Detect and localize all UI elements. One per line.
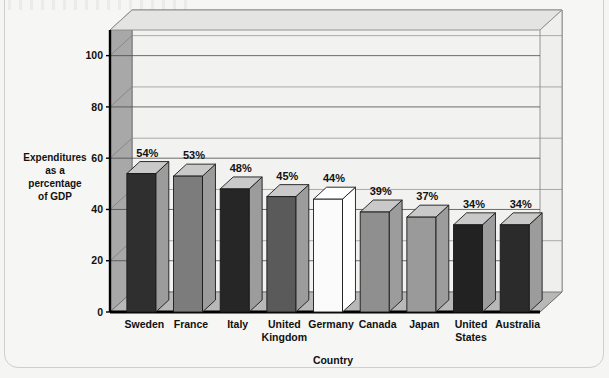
bar-sweden [127, 162, 169, 312]
bar-front-face [360, 212, 389, 312]
bar-canada [360, 200, 402, 312]
y-tick-label: 20 [91, 254, 103, 266]
category-label: Kingdom [262, 331, 308, 343]
bar-front-face [127, 174, 156, 312]
category-label: France [174, 318, 209, 330]
y-tick-labels: 020406080100 [85, 49, 110, 317]
bar-value-label: 39% [370, 185, 392, 197]
bar-value-label: 34% [463, 198, 485, 210]
bar-value-label: 53% [183, 149, 205, 161]
bar-chart: 020406080100Expendituresas apercentageof… [0, 0, 609, 378]
bar-value-label: 48% [230, 162, 252, 174]
bar-side-face [342, 187, 355, 312]
bar-germany [314, 187, 356, 312]
category-label: United [455, 318, 488, 330]
bar-front-face [267, 197, 296, 312]
y-tick-label: 80 [91, 101, 103, 113]
bar-front-face [407, 217, 436, 312]
plot-right-wall [540, 10, 562, 312]
category-label: United [268, 318, 301, 330]
bar-front-face [314, 199, 343, 312]
y-tick-label: 0 [97, 306, 103, 318]
x-axis-title: Country [313, 354, 353, 366]
bar-front-face [500, 225, 529, 312]
y-tick-label: 60 [91, 152, 103, 164]
bar-side-face [296, 185, 309, 312]
bar-front-face [174, 176, 203, 312]
chart-page: 020406080100Expendituresas apercentageof… [0, 0, 609, 378]
bar-united-kingdom [267, 185, 309, 312]
bar-side-face [389, 200, 402, 312]
bar-japan [407, 205, 449, 312]
category-label: Italy [227, 318, 248, 330]
bar-value-label: 54% [136, 147, 158, 159]
y-axis-title: Expendituresas apercentageof GDP [23, 152, 87, 202]
y-axis-title-line: percentage [28, 178, 82, 189]
bar-side-face [249, 177, 262, 312]
category-label: Germany [308, 318, 354, 330]
bar-side-face [202, 164, 215, 312]
bar-side-face [529, 213, 542, 312]
category-labels: SwedenFranceItalyUnitedKingdomGermanyCan… [124, 318, 540, 343]
bar-front-face [220, 189, 249, 312]
bar-side-face [482, 213, 495, 312]
bar-united-states [454, 213, 496, 312]
category-label: Sweden [124, 318, 164, 330]
y-tick-label: 40 [91, 203, 103, 215]
bar-value-label: 37% [416, 190, 438, 202]
bar-france [174, 164, 216, 312]
category-label: States [455, 331, 487, 343]
category-label: Canada [359, 318, 397, 330]
bar-front-face [454, 225, 483, 312]
bar-italy [220, 177, 262, 312]
bar-value-label: 44% [323, 172, 345, 184]
plot-top-plane [110, 10, 562, 30]
y-axis-title-line: of GDP [38, 191, 72, 202]
y-axis-title-line: as a [45, 165, 65, 176]
y-tick-label: 100 [85, 49, 103, 61]
bar-side-face [436, 205, 449, 312]
bar-side-face [156, 162, 169, 312]
bar-value-label: 45% [276, 170, 298, 182]
category-label: Australia [495, 318, 540, 330]
bar-value-label: 34% [510, 198, 532, 210]
y-axis-title-line: Expenditures [23, 152, 87, 163]
bar-australia [500, 213, 542, 312]
category-label: Japan [409, 318, 439, 330]
